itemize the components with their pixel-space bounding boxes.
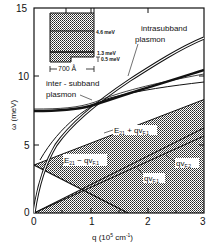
x-tick-1: 1 — [89, 216, 95, 227]
x-tick-0: 0 — [31, 216, 37, 227]
dispersion-chart: 4.6 meV 1.3 meV 0.5 meV 700 Å intrasubba… — [0, 0, 213, 247]
inset-label-4-6mev: 4.6 meV — [96, 29, 116, 35]
inset-label-0-5mev: 0.5 meV — [101, 56, 121, 62]
shaded-continuum-regions — [34, 100, 204, 214]
inset-width-label: 700 Å — [58, 64, 77, 72]
inter-subband-label-line2: plasmon — [46, 90, 76, 99]
x-axis-title: q (105 cm-1) — [92, 232, 133, 242]
inter-subband-label-line1: inter - subband — [46, 79, 99, 88]
x-tick-2: 2 — [145, 216, 151, 227]
y-tick-5: 5 — [24, 140, 30, 151]
e21-minus-qvf-label: E21 − qvF,1 — [60, 154, 107, 168]
intrasubband-label-line2: plasmon — [135, 35, 165, 44]
e21-plus-qvf-label: E21 + qvF,1 — [104, 125, 157, 136]
x-tick-3: 3 — [200, 216, 206, 227]
y-axis-title: ω (meV) — [9, 99, 18, 130]
y-tick-0: 0 — [24, 207, 30, 218]
intrasubband-label-line1: intrasubband — [141, 24, 187, 33]
y-tick-15: 15 — [16, 3, 28, 14]
inset-quantum-well: 4.6 meV 1.3 meV 0.5 meV 700 Å — [50, 8, 121, 72]
y-tick-10: 10 — [18, 71, 30, 82]
